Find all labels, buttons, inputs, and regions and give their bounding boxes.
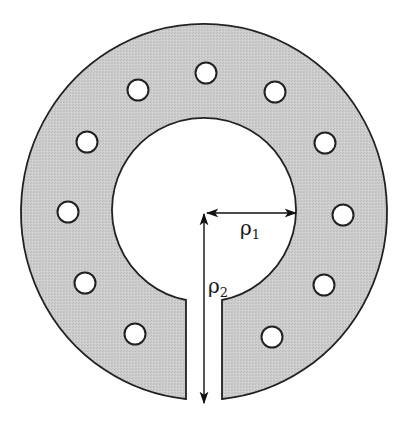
bolt-hole <box>314 275 335 296</box>
bolt-hole <box>128 80 149 101</box>
bolt-hole <box>315 133 336 154</box>
bolt-hole <box>262 327 283 348</box>
bolt-hole <box>75 273 96 294</box>
bolt-hole <box>125 324 146 345</box>
rho1-label: ρ1 <box>240 216 260 242</box>
bolt-hole <box>196 63 217 84</box>
bolt-hole <box>333 205 354 226</box>
rho2-label: ρ2 <box>208 274 228 300</box>
bolt-hole <box>77 132 98 153</box>
slotted-ring-diagram: ρ1 ρ2 <box>0 0 405 422</box>
bolt-hole <box>58 202 79 223</box>
bolt-hole <box>265 82 286 103</box>
